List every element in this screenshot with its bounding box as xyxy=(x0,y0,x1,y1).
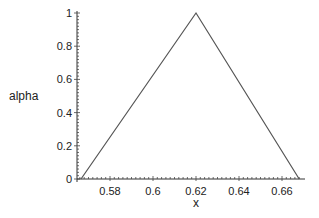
y-tick-label: 1 xyxy=(66,7,72,19)
axes xyxy=(77,11,305,182)
data-series xyxy=(81,13,299,179)
x-tick-label: 0.6 xyxy=(145,185,160,197)
y-tick-label: 0 xyxy=(66,173,72,185)
x-tick-label: 0.58 xyxy=(99,185,120,197)
x-axis-label: x xyxy=(193,196,199,210)
y-tick-label: 0.2 xyxy=(57,140,72,152)
x-tick-label: 0.66 xyxy=(271,185,292,197)
y-tick-label: 0.6 xyxy=(57,73,72,85)
y-axis-label: alpha xyxy=(9,89,39,103)
x-tick-label: 0.64 xyxy=(228,185,249,197)
series-line xyxy=(81,13,299,179)
triangular-membership-chart: 00.20.40.60.81 0.580.60.620.640.66 x alp… xyxy=(0,0,319,218)
y-tick-label: 0.4 xyxy=(57,107,72,119)
y-tick-label: 0.8 xyxy=(57,40,72,52)
